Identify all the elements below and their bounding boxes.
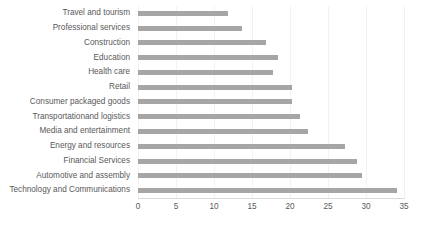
bar[interactable] <box>138 70 273 75</box>
bar-row <box>138 36 404 51</box>
bar[interactable] <box>138 159 357 164</box>
category-label: Energy and resources <box>0 139 134 154</box>
bar-series <box>138 6 404 198</box>
gridline <box>404 6 405 198</box>
bar[interactable] <box>138 85 292 90</box>
x-tick-label: 30 <box>361 200 370 214</box>
category-label: Education <box>0 50 134 65</box>
category-label: Media and entertainment <box>0 124 134 139</box>
x-tick-label: 0 <box>136 200 141 214</box>
category-label: Travel and tourism <box>0 6 134 21</box>
category-label: Professional services <box>0 21 134 36</box>
category-label: Consumer packaged goods <box>0 95 134 110</box>
bar-row <box>138 95 404 110</box>
x-tick-label: 15 <box>247 200 256 214</box>
category-label: Retail <box>0 80 134 95</box>
bar-row <box>138 6 404 21</box>
x-tick-label: 20 <box>285 200 294 214</box>
bar[interactable] <box>138 173 362 178</box>
bar-row <box>138 65 404 80</box>
category-label: Transportationand logistics <box>0 109 134 124</box>
category-axis-labels: Travel and tourismProfessional servicesC… <box>0 6 134 198</box>
bar[interactable] <box>138 129 308 134</box>
category-label: Technology and Communications <box>0 183 134 198</box>
category-label: Automotive and assembly <box>0 168 134 183</box>
bar[interactable] <box>138 144 345 149</box>
category-label: Construction <box>0 36 134 51</box>
category-label: Health care <box>0 65 134 80</box>
x-tick-label: 35 <box>399 200 408 214</box>
bar[interactable] <box>138 188 397 193</box>
bar-row <box>138 139 404 154</box>
x-tick-label: 10 <box>209 200 218 214</box>
x-tick-label: 25 <box>323 200 332 214</box>
bar[interactable] <box>138 114 300 119</box>
bar-row <box>138 21 404 36</box>
bar-row <box>138 124 404 139</box>
bar-row <box>138 109 404 124</box>
x-axis-tick-labels: 05101520253035 <box>138 200 404 214</box>
plot-area <box>138 6 404 198</box>
bar-chart: Travel and tourismProfessional servicesC… <box>0 0 431 233</box>
bar[interactable] <box>138 55 278 60</box>
category-label: Financial Services <box>0 154 134 169</box>
x-axis-line <box>138 198 405 199</box>
bar-row <box>138 80 404 95</box>
bar[interactable] <box>138 11 228 16</box>
bar-row <box>138 50 404 65</box>
bar[interactable] <box>138 99 292 104</box>
bar[interactable] <box>138 26 242 31</box>
bar-row <box>138 154 404 169</box>
x-tick-label: 5 <box>174 200 179 214</box>
bar-row <box>138 168 404 183</box>
bar[interactable] <box>138 40 266 45</box>
bar-row <box>138 183 404 198</box>
